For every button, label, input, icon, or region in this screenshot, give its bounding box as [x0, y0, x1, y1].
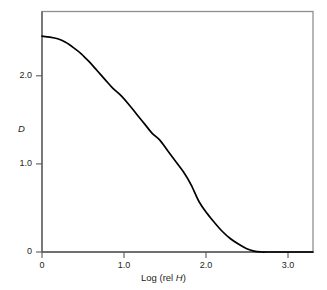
- plot-frame: [42, 12, 313, 253]
- data-series-line: [42, 36, 313, 252]
- chart-container: 0 1.0 2.0 0 1.0 2.0 3.0 D Log (rel H): [0, 0, 327, 290]
- x-axis-ticks: [42, 252, 288, 258]
- x-axis-title-symbol: H: [176, 272, 183, 283]
- x-tick-label-0: 0: [30, 261, 54, 270]
- x-tick-label-3: 3.0: [276, 261, 300, 270]
- y-axis-ticks: [36, 76, 42, 252]
- x-axis-title-prefix: Log (rel: [141, 272, 176, 283]
- y-tick-label-2: 2.0: [10, 71, 32, 80]
- y-tick-label-0: 0: [10, 247, 32, 256]
- x-axis-title-suffix: ): [183, 272, 186, 283]
- x-tick-label-2: 2.0: [194, 261, 218, 270]
- x-axis-title: Log (rel H): [141, 273, 186, 283]
- y-axis-title: D: [18, 124, 25, 134]
- y-tick-label-1: 1.0: [10, 159, 32, 168]
- chart-plot-area: [0, 0, 327, 290]
- x-tick-label-1: 1.0: [112, 261, 136, 270]
